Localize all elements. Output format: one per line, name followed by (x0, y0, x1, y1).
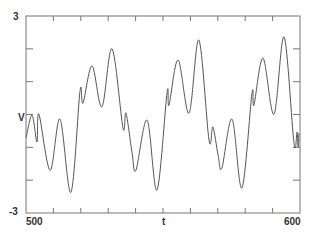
x-tick-label-left: 500 (26, 217, 43, 227)
data-line (26, 37, 299, 193)
axis-ticks (26, 16, 300, 213)
x-tick-label-right: 600 (284, 217, 301, 227)
y-tick-label-bottom: -3 (9, 207, 18, 217)
line-chart (0, 0, 312, 235)
y-tick-label-top: 3 (13, 12, 19, 22)
y-axis-label: V (18, 113, 25, 123)
plot-frame (26, 16, 300, 213)
x-axis-label: t (162, 217, 165, 227)
